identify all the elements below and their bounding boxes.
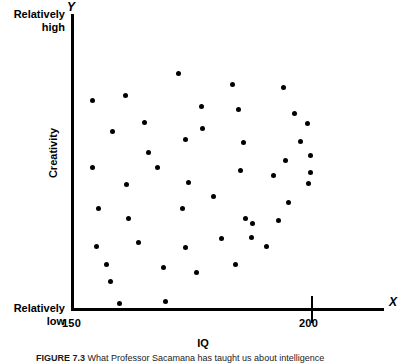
data-point <box>236 107 241 112</box>
data-point <box>110 129 115 134</box>
data-point <box>308 170 313 175</box>
figure-caption: FIGURE 7.3 What Professor Sacamana has t… <box>36 353 376 363</box>
data-point <box>199 104 204 109</box>
figure-caption-text: What Professor Sacamana has taught us ab… <box>88 353 325 363</box>
x-axis-max-label: 200 <box>299 317 318 329</box>
data-point <box>281 85 286 90</box>
data-point <box>126 216 131 221</box>
x-axis-line <box>71 308 384 311</box>
data-point <box>136 240 141 245</box>
data-point <box>298 139 303 144</box>
data-point <box>104 262 109 267</box>
x-axis-letter: X <box>389 296 397 308</box>
data-point <box>90 165 95 170</box>
data-point <box>146 150 151 155</box>
scatter-plot-figure: Relatively high Relatively low Creativit… <box>0 0 406 363</box>
y-axis-low-anchor-line2: low <box>3 315 65 328</box>
data-point <box>250 221 255 226</box>
data-point <box>292 111 297 116</box>
data-point <box>230 82 235 87</box>
data-point <box>308 153 313 158</box>
figure-caption-prefix: FIGURE 7.3 <box>36 353 85 363</box>
y-axis-low-anchor-line1: Relatively <box>3 302 65 315</box>
data-point <box>186 180 191 185</box>
data-point <box>219 236 224 241</box>
data-point <box>183 137 188 142</box>
data-point <box>249 235 254 240</box>
y-axis-low-anchor: Relatively low <box>3 302 65 328</box>
data-point <box>264 244 269 249</box>
data-point <box>90 98 95 103</box>
y-axis-letter: Y <box>67 1 75 13</box>
data-point <box>233 262 238 267</box>
x-axis-min-label: 150 <box>62 317 81 329</box>
data-point <box>161 265 166 270</box>
data-point <box>96 206 101 211</box>
y-axis-high-anchor: Relatively high <box>3 8 65 34</box>
data-point <box>108 279 113 284</box>
data-point <box>286 200 291 205</box>
data-point <box>211 194 216 199</box>
y-axis-title: Creativity <box>47 98 59 208</box>
y-axis-high-anchor-line1: Relatively <box>3 8 65 21</box>
data-point <box>305 121 310 126</box>
data-point <box>306 181 311 186</box>
data-point <box>123 93 128 98</box>
data-point <box>155 165 160 170</box>
data-point <box>200 126 205 131</box>
data-point <box>180 206 185 211</box>
data-point <box>176 71 181 76</box>
data-point <box>238 168 243 173</box>
data-point <box>194 270 199 275</box>
data-point <box>163 299 168 304</box>
x-axis-title: IQ <box>0 337 406 349</box>
data-point <box>117 301 122 306</box>
data-point <box>276 218 281 223</box>
data-point <box>243 216 248 221</box>
y-axis-line <box>71 14 74 311</box>
data-point <box>94 244 99 249</box>
data-point <box>283 158 288 163</box>
data-point <box>271 173 276 178</box>
y-axis-high-anchor-line2: high <box>3 21 65 34</box>
data-point <box>124 182 129 187</box>
data-point <box>183 245 188 250</box>
data-point <box>241 140 246 145</box>
data-point <box>142 120 147 125</box>
